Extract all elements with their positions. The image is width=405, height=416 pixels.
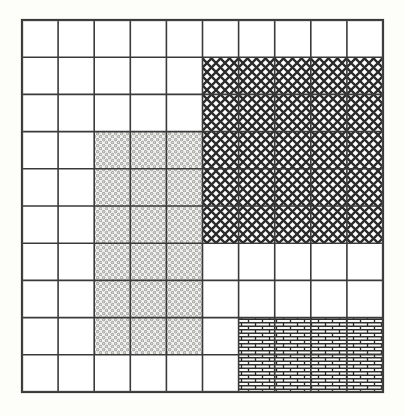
diagram-canvas <box>0 0 405 416</box>
region-crosshatch[interactable] <box>203 57 384 243</box>
grid-diagram <box>0 0 405 416</box>
